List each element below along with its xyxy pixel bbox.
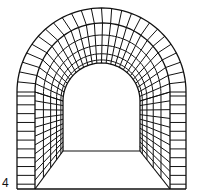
tunnel-illustration bbox=[0, 0, 203, 196]
figure-number-label: 4 bbox=[2, 176, 9, 190]
